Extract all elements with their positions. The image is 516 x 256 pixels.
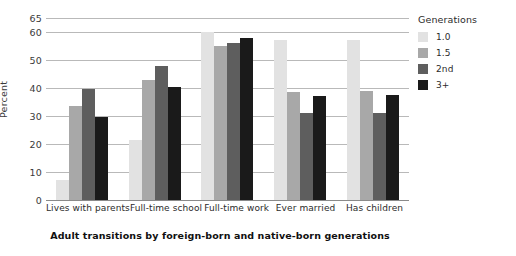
bar — [360, 91, 373, 200]
legend-swatch-icon — [418, 48, 428, 58]
bar — [168, 87, 181, 200]
x-category-label: Has children — [340, 203, 409, 213]
bar-group — [191, 18, 264, 200]
legend-swatch-icon — [418, 80, 428, 90]
bar — [56, 180, 69, 200]
x-category-label: Ever married — [271, 203, 340, 213]
bar-group — [264, 18, 337, 200]
bar — [214, 46, 227, 200]
legend-swatch-icon — [418, 64, 428, 74]
bar — [287, 92, 300, 200]
bar — [274, 40, 287, 200]
legend-item[interactable]: 2nd — [418, 64, 514, 74]
y-tick-label-30: 30 — [30, 111, 43, 122]
legend-label: 1.5 — [436, 48, 451, 58]
x-axis-line — [46, 200, 409, 201]
y-tick-label-65: 65 — [30, 13, 43, 24]
bar-group — [46, 18, 119, 200]
legend-label: 2nd — [436, 64, 453, 74]
bar — [155, 66, 168, 200]
legend-title: Generations — [418, 14, 514, 25]
bar — [201, 32, 214, 200]
y-tick-label-0: 0 — [36, 195, 42, 206]
legend-swatch-icon — [418, 32, 428, 42]
y-tick-label-50: 50 — [30, 55, 43, 66]
legend-label: 3+ — [436, 80, 449, 90]
bar-chart: 010203040506065 Percent Lives with paren… — [0, 0, 516, 256]
bar-group — [336, 18, 409, 200]
legend-items: 1.01.52nd3+ — [418, 32, 514, 90]
x-axis-category-labels: Lives with parentsFull-time schoolFull-t… — [46, 203, 409, 213]
x-category-label: Full-time school — [130, 203, 202, 213]
bar — [240, 38, 253, 200]
bar — [129, 140, 142, 200]
y-tick-label-10: 10 — [30, 167, 43, 178]
bar-group — [119, 18, 192, 200]
legend-label: 1.0 — [436, 32, 451, 42]
bar — [69, 106, 82, 200]
bar — [142, 80, 155, 200]
bar — [347, 40, 360, 200]
bar — [227, 43, 240, 200]
x-category-label: Full-time work — [202, 203, 271, 213]
bar — [373, 113, 386, 200]
legend-item[interactable]: 1.5 — [418, 48, 514, 58]
y-tick-label-60: 60 — [30, 27, 43, 38]
bar — [313, 96, 326, 200]
bar — [82, 89, 95, 200]
y-tick-label-20: 20 — [30, 139, 43, 150]
chart-title: Adult transitions by foreign-born and na… — [0, 230, 440, 241]
y-axis-title: Percent — [0, 81, 9, 118]
bar — [300, 113, 313, 200]
bar — [386, 95, 399, 200]
y-tick-label-40: 40 — [30, 83, 43, 94]
bar — [95, 117, 108, 200]
legend-item[interactable]: 1.0 — [418, 32, 514, 42]
bar-groups — [46, 18, 409, 200]
x-category-label: Lives with parents — [46, 203, 130, 213]
legend: Generations 1.01.52nd3+ — [418, 14, 514, 96]
legend-item[interactable]: 3+ — [418, 80, 514, 90]
